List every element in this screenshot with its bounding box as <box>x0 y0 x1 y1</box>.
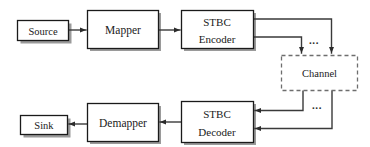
diagram-svg: Source Mapper STBC Encoder Channel STBC … <box>0 0 370 147</box>
source-label: Source <box>28 26 57 37</box>
connection-encoder-to-channel-n <box>253 19 332 53</box>
block-mapper[interactable]: Mapper <box>88 11 159 49</box>
stbc-decoder-label-line1: STBC <box>203 108 231 120</box>
block-source[interactable]: Source <box>18 21 69 41</box>
block-stbc-decoder[interactable]: STBC Decoder <box>182 102 254 143</box>
stbc-encoder-label-line2: Encoder <box>199 33 236 45</box>
channel-label: Channel <box>302 68 337 79</box>
block-channel[interactable]: Channel <box>282 56 358 91</box>
sink-label: Sink <box>34 120 54 131</box>
stbc-decoder-label-line2: Decoder <box>198 126 236 138</box>
connection-channel-to-decoder-1 <box>255 90 303 111</box>
connection-encoder-to-channel-1 <box>253 37 302 53</box>
block-demapper[interactable]: Demapper <box>88 104 159 142</box>
demapper-label: Demapper <box>99 117 147 130</box>
stbc-encoder-label-line1: STBC <box>203 16 231 28</box>
rx-antenna-ellipsis: ... <box>312 99 322 111</box>
mapper-label: Mapper <box>105 24 141 37</box>
block-sink[interactable]: Sink <box>21 116 68 135</box>
tx-antenna-ellipsis: ... <box>309 34 319 46</box>
diagram-canvas: Source Mapper STBC Encoder Channel STBC … <box>0 0 370 147</box>
block-stbc-encoder[interactable]: STBC Encoder <box>182 11 254 49</box>
